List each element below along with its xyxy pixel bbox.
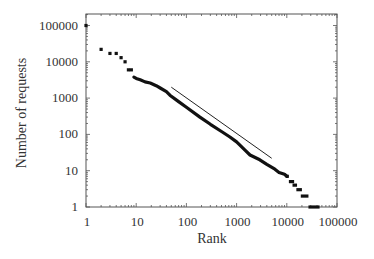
data-series [84,24,319,207]
x-tick-labels: 110100100010000100000 [84,214,358,229]
log-log-rank-plot: 110100100010000100000 110100100010000100… [0,0,374,259]
x-axis-title: Rank [197,231,227,246]
plot-frame [86,14,337,207]
x-tick-label: 10 [131,214,144,229]
x-tick-label: 1 [84,214,91,229]
y-tick-labels: 110100100010000100000 [39,18,78,215]
y-tick-label: 100 [59,126,79,141]
y-tick-label: 100000 [39,18,78,33]
axis-ticks [86,14,337,207]
reference-line [171,87,271,158]
y-tick-label: 1000 [52,90,78,105]
x-tick-label: 1000 [225,214,251,229]
y-tick-label: 10000 [46,54,79,69]
x-tick-label: 100000 [319,214,358,229]
y-tick-label: 10 [65,163,78,178]
y-tick-label: 1 [72,199,79,214]
y-axis-title: Number of requests [14,58,29,168]
x-tick-label: 100 [178,214,198,229]
x-tick-label: 10000 [272,214,305,229]
